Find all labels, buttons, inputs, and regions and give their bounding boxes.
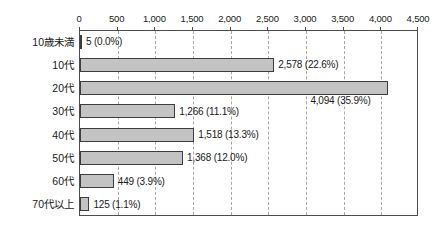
- category-label: 40代: [0, 129, 74, 141]
- bar: [80, 151, 183, 165]
- x-axis-tick-labels: 05001,0001,5002,0002,5003,0003,5004,0004…: [0, 13, 442, 27]
- bar: [80, 197, 89, 211]
- chart-row: 60代449 (3.9%): [0, 170, 442, 193]
- bar-value-label: 449 (3.9%): [118, 175, 165, 188]
- category-label: 10代: [0, 59, 74, 71]
- category-label: 70代以上: [0, 198, 74, 210]
- x-tick-label: 4,500: [407, 13, 430, 25]
- x-tick-label: 3,000: [294, 13, 317, 25]
- category-label: 10歳未満: [0, 36, 74, 48]
- x-tick-label: 1,500: [181, 13, 204, 25]
- x-tick-label: 2,500: [256, 13, 279, 25]
- bar-value-label: 1,368 (12.0%): [187, 151, 247, 164]
- x-tick-label: 500: [109, 13, 124, 25]
- x-tick-label: 0: [76, 13, 81, 25]
- bar-chart: 05001,0001,5002,0002,5003,0003,5004,0004…: [0, 0, 442, 231]
- chart-row: 10代2,578 (22.6%): [0, 53, 442, 76]
- bar: [80, 58, 274, 72]
- chart-row: 40代1,518 (13.3%): [0, 123, 442, 146]
- category-label: 20代: [0, 82, 74, 94]
- chart-row: 70代以上125 (1.1%): [0, 193, 442, 216]
- chart-row: 30代1,266 (11.1%): [0, 100, 442, 123]
- chart-row: 50代1,368 (12.0%): [0, 146, 442, 169]
- bar-value-label: 2,578 (22.6%): [278, 58, 338, 71]
- bar: [80, 35, 82, 49]
- x-tick-label: 1,000: [143, 13, 166, 25]
- bar-value-label: 5 (0.0%): [86, 35, 122, 48]
- chart-rows: 10歳未満5 (0.0%)10代2,578 (22.6%)20代4,094 (3…: [0, 30, 442, 216]
- bar-value-label: 1,518 (13.3%): [198, 128, 258, 141]
- chart-row: 20代4,094 (35.9%): [0, 77, 442, 100]
- category-label: 60代: [0, 175, 74, 187]
- bar: [80, 128, 194, 142]
- category-label: 30代: [0, 105, 74, 117]
- x-tick-label: 4,000: [369, 13, 392, 25]
- bar: [80, 104, 175, 118]
- category-label: 50代: [0, 152, 74, 164]
- bar-value-label: 1,266 (11.1%): [179, 105, 238, 118]
- bar-value-label: 125 (1.1%): [93, 198, 140, 211]
- bar: [80, 174, 114, 188]
- chart-row: 10歳未満5 (0.0%): [0, 30, 442, 53]
- x-tick-label: 2,000: [218, 13, 241, 25]
- x-tick-label: 3,500: [331, 13, 354, 25]
